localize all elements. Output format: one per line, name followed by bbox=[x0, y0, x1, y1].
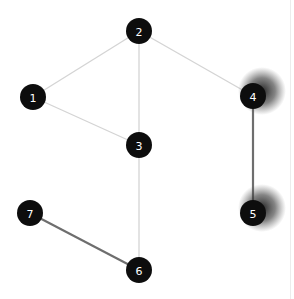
node-1[interactable]: 1 bbox=[20, 84, 46, 110]
node-3[interactable]: 3 bbox=[126, 132, 152, 158]
node-label: 2 bbox=[136, 26, 143, 39]
node-label: 3 bbox=[136, 140, 143, 153]
node-7[interactable]: 7 bbox=[17, 200, 43, 226]
edge-1-3[interactable] bbox=[33, 97, 139, 145]
node-5[interactable]: 5 bbox=[240, 200, 266, 226]
node-6[interactable]: 6 bbox=[126, 257, 152, 283]
edge-2-4[interactable] bbox=[139, 31, 253, 96]
node-4[interactable]: 4 bbox=[240, 83, 266, 109]
node-label: 1 bbox=[30, 92, 37, 105]
node-label: 5 bbox=[250, 208, 257, 221]
node-layer: 1234567 bbox=[17, 18, 266, 283]
node-label: 4 bbox=[250, 91, 257, 104]
node-label: 6 bbox=[136, 265, 143, 278]
edge-1-2[interactable] bbox=[33, 31, 139, 97]
node-label: 7 bbox=[27, 208, 34, 221]
node-2[interactable]: 2 bbox=[126, 18, 152, 44]
graph-canvas: 1234567 bbox=[0, 0, 294, 299]
edge-7-6[interactable] bbox=[30, 213, 139, 270]
